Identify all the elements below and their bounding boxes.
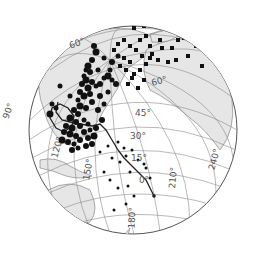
circle-point [109,59,115,65]
square-point [142,78,146,82]
small-point [125,155,128,158]
circle-point [102,102,107,107]
square-point [200,64,204,68]
square-point [132,26,136,30]
square-point [182,36,186,40]
circle-point [85,135,91,141]
latitude-label: 45° [135,108,151,118]
circle-point [79,81,85,87]
square-point [132,72,136,76]
square-point [138,38,142,42]
square-point [122,38,126,42]
circle-point [113,81,119,87]
circle-point [72,142,77,147]
circle-point [85,85,92,92]
circle-point [89,57,95,63]
circle-point [93,49,100,56]
small-point [111,157,114,160]
square-point [144,62,148,66]
circle-point [110,78,115,83]
square-point [144,34,148,38]
square-point [210,28,214,32]
square-point [186,54,190,58]
square-point [124,68,128,72]
circle-point [86,122,91,127]
square-point [136,86,140,90]
square-point [122,56,126,60]
small-point [117,187,120,190]
circle-point [116,54,121,59]
circle-point [91,43,97,49]
circle-point [77,123,83,129]
circle-point [63,123,69,129]
circle-point [83,105,89,111]
square-point [160,46,164,50]
small-point [119,161,122,164]
longitude-label: 90° [1,102,16,120]
circle-point [50,102,55,107]
square-point [148,56,152,60]
latitude-label: 0° [139,175,149,185]
square-point [138,68,142,72]
square-point [170,46,174,50]
small-point [123,147,126,150]
circle-point [97,93,103,99]
track-end-marker [152,194,156,198]
small-point [129,171,132,174]
circle-point [97,81,103,87]
longitude-label: 210° [167,167,179,189]
small-point [109,179,112,182]
circle-point [89,79,95,85]
circle-point [61,129,67,135]
circle-point [99,117,105,123]
square-point [138,22,142,26]
circle-point [108,68,113,73]
small-point [117,141,120,144]
circle-point [102,56,107,61]
circle-point [77,137,83,143]
small-point [103,171,106,174]
small-point [145,167,148,170]
circle-point [76,146,81,151]
square-point [134,18,138,22]
square-point [134,48,138,52]
circle-point [106,90,111,95]
square-point [166,60,170,64]
circle-point [67,131,74,138]
square-point [150,52,154,56]
circle-point [89,99,95,105]
circle-point [82,118,87,123]
circle-point [47,111,54,118]
circle-point [69,147,75,153]
square-point [148,44,152,48]
circle-point [69,125,76,132]
small-point [125,203,128,206]
circle-point [75,111,81,117]
square-point [116,42,120,46]
circle-point [87,91,93,97]
square-point [166,20,170,24]
square-point [156,58,160,62]
square-point [176,38,180,42]
small-point [99,151,102,154]
square-point [140,54,144,58]
circle-point [67,115,74,122]
latitude-label: 30° [130,131,146,141]
globe-map: 60°60°45°30°15°0°90°120°150°180°210°240° [0,0,265,263]
square-point [112,48,116,52]
square-point [158,38,162,42]
square-point [128,44,132,48]
latitude-label: 15° [131,153,147,163]
small-point [131,149,134,152]
circle-point [65,139,71,145]
circle-point [81,93,88,100]
square-point [174,58,178,62]
circle-point [54,106,59,111]
circle-point [89,141,95,147]
circle-point [58,84,63,89]
small-point [133,195,136,198]
circle-point [93,125,99,131]
small-point [113,209,116,212]
circle-point [77,103,84,110]
circle-point [83,143,89,149]
